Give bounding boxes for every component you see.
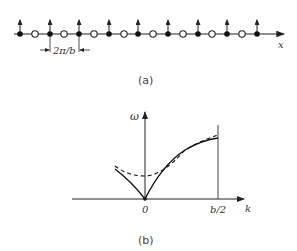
- filled-site: [76, 31, 82, 37]
- open-site: [32, 31, 38, 37]
- filled-site: [17, 31, 23, 37]
- open-site: [61, 31, 67, 37]
- tick-half-b: b/2: [210, 204, 226, 215]
- origin-point: [143, 197, 147, 201]
- omega-label: ω: [130, 110, 139, 123]
- filled-site: [165, 31, 171, 37]
- k-label: k: [245, 203, 251, 214]
- filled-site: [224, 31, 230, 37]
- spacing-label: 2π/b: [52, 45, 76, 56]
- x-axis-label: x: [278, 39, 284, 50]
- panel-b-dispersion: ω k 0 b/2 (b): [72, 110, 251, 247]
- caption-b: (b): [138, 234, 154, 247]
- open-site: [150, 31, 156, 37]
- open-site: [121, 31, 127, 37]
- open-site: [209, 31, 215, 37]
- caption-a: (a): [138, 74, 153, 87]
- filled-site: [195, 31, 201, 37]
- dashed-dispersion-curve: [115, 135, 218, 176]
- filled-site: [106, 31, 112, 37]
- figure: 2π/b x (a) ω k 0 b/2 (b): [0, 0, 297, 251]
- solid-dispersion-curve: [115, 138, 218, 199]
- tick-zero: 0: [142, 204, 149, 215]
- filled-site: [135, 31, 141, 37]
- filled-site: [254, 31, 260, 37]
- open-site: [239, 31, 245, 37]
- panel-a-lattice: 2π/b x (a): [14, 20, 284, 87]
- open-site: [91, 31, 97, 37]
- filled-site: [47, 31, 53, 37]
- open-site: [180, 31, 186, 37]
